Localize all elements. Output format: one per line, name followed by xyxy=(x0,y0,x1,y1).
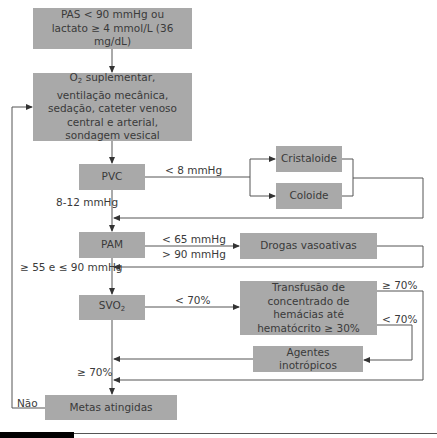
node-agentes: Agentes inotrópicos xyxy=(253,346,363,372)
label-pvc-ok: 8-12 mmHg xyxy=(56,196,118,208)
node-svo2-text: SVO2 xyxy=(99,299,125,317)
svo2-sub: 2 xyxy=(121,305,125,313)
label-svo2-low: < 70% xyxy=(175,294,210,306)
node-start: PAS < 90 mmHg ou lactato ≥ 4 mmol/L (36 … xyxy=(33,8,192,49)
footer-black-bar xyxy=(0,432,74,438)
connector-lines xyxy=(0,0,437,438)
label-svo2-ok: ≥ 70% xyxy=(77,366,112,378)
label-transf-low: < 70% xyxy=(382,313,417,325)
support-rest: suplementar, ventilação mecânica, sedaçã… xyxy=(48,71,177,141)
node-pvc: PVC xyxy=(79,164,145,190)
support-prefix: O xyxy=(70,71,78,83)
node-start-line2: lactato ≥ 4 mmol/L (36 mg/dL) xyxy=(37,22,188,49)
node-start-line1: PAS < 90 mmHg ou xyxy=(61,8,164,22)
footer-rule xyxy=(74,433,437,434)
node-drogas: Drogas vasoativas xyxy=(240,233,377,259)
node-metas: Metas atingidas xyxy=(45,395,177,420)
node-coloide: Coloide xyxy=(276,183,342,209)
label-pam-high: > 90 mmHg xyxy=(162,248,226,260)
label-pvc-low: < 8 mmHg xyxy=(165,164,222,176)
label-pam-ok: ≥ 55 e ≤ 90 mmHg xyxy=(20,261,122,273)
node-transfusao: Transfusão de concentrado de hemácias at… xyxy=(240,281,377,335)
label-pam-low: < 65 mmHg xyxy=(162,233,226,245)
svo2-prefix: SVO xyxy=(99,299,121,311)
node-svo2: SVO2 xyxy=(79,295,145,320)
node-support: O2 suplementar, ventilação mecânica, sed… xyxy=(33,73,192,141)
node-support-text: O2 suplementar, ventilação mecânica, sed… xyxy=(43,71,182,143)
node-pam: PAM xyxy=(79,232,145,258)
node-cristaloide: Cristaloide xyxy=(276,146,342,172)
label-transf-ok: ≥ 70% xyxy=(382,279,417,291)
label-nao: Não xyxy=(17,397,38,409)
